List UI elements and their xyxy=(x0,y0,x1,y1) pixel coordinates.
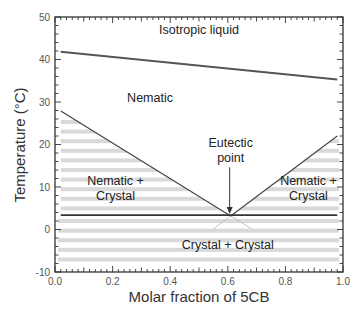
hatch-stripe xyxy=(58,206,339,210)
y-tick-label: -10 xyxy=(36,267,51,278)
hatch-stripe xyxy=(58,158,339,162)
y-tick-label: 40 xyxy=(39,54,51,65)
region-label: Isotropic liquid xyxy=(159,23,239,37)
y-tick-label: 10 xyxy=(39,182,51,193)
x-tick-label: 0.8 xyxy=(278,276,292,287)
x-tick-label: 0.2 xyxy=(106,276,120,287)
y-tick-label: 50 xyxy=(39,12,51,23)
region-label: Nematic + xyxy=(87,174,144,188)
x-tick-label: 0.0 xyxy=(48,276,62,287)
x-tick-label: 0.4 xyxy=(163,276,177,287)
phase-diagram-chart: 0.00.20.40.60.81.0-1001020304050 Isotrop… xyxy=(0,0,364,317)
x-tick-label: 0.6 xyxy=(221,276,235,287)
hatch-stripe xyxy=(58,229,339,233)
hatch-stripe xyxy=(58,139,339,143)
series-line xyxy=(61,52,337,80)
y-tick-label: 20 xyxy=(39,139,51,150)
hatch-stripe xyxy=(58,168,339,172)
y-axis-title: Temperature (°C) xyxy=(11,87,28,202)
region-label: Nematic xyxy=(127,91,173,105)
eutectic-label-line2: point xyxy=(217,151,245,165)
hatch-stripe xyxy=(58,130,339,134)
hatch-stripe xyxy=(58,149,339,153)
x-tick-label: 1.0 xyxy=(336,276,350,287)
y-tick-label: 0 xyxy=(44,224,50,235)
hatch-stripe xyxy=(58,257,339,261)
hatch-stripe xyxy=(58,219,339,223)
region-label: Nematic + xyxy=(280,174,337,188)
region-label: Crystal xyxy=(289,189,328,203)
eutectic-label-line1: Eutectic xyxy=(208,136,252,150)
arrow-head-icon xyxy=(227,207,233,214)
region-label: Crystal xyxy=(96,189,135,203)
y-tick-label: 30 xyxy=(39,97,51,108)
region-label: Crystal + Crystal xyxy=(182,238,274,252)
x-axis-title: Molar fraction of 5CB xyxy=(129,288,270,305)
hatch-stripe xyxy=(58,120,339,124)
eutectic-annotation: Eutectic point xyxy=(208,136,252,214)
